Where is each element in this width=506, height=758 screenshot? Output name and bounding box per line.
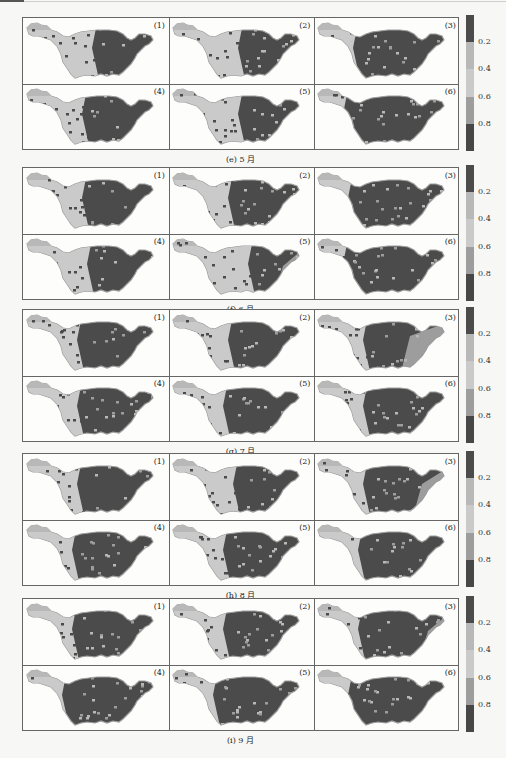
grid-cell — [224, 50, 227, 53]
grid-cell — [394, 678, 397, 681]
grid-cell — [192, 406, 195, 409]
colorbar-band — [466, 247, 474, 275]
grid-cell — [355, 254, 358, 257]
grid-cell — [434, 259, 437, 262]
grid-cell — [442, 47, 445, 50]
grid-cell — [323, 495, 326, 498]
grid-cell — [335, 249, 338, 252]
grid-cell — [443, 435, 446, 438]
grid-cell — [327, 399, 330, 402]
grid-cell — [55, 108, 58, 111]
grid-cell — [369, 609, 372, 612]
grid-cell — [158, 655, 161, 658]
basin-map — [23, 665, 168, 731]
grid-cell — [299, 552, 302, 555]
grid-cell — [146, 505, 149, 508]
grid-cell — [279, 501, 282, 504]
grid-cell — [234, 287, 237, 290]
panel-label: (5) — [299, 237, 310, 246]
grid-cell — [321, 246, 324, 249]
panel-label: (3) — [445, 457, 456, 466]
grid-cell — [238, 565, 241, 568]
panel-label: (4) — [154, 237, 165, 246]
grid-cell — [271, 190, 274, 193]
grid-cell — [107, 534, 110, 537]
grid-cell — [85, 61, 88, 64]
panel-label: (1) — [154, 602, 165, 611]
grid-cell — [53, 704, 56, 707]
grid-cell — [445, 504, 448, 507]
grid-cell — [415, 413, 418, 416]
grid-cell — [124, 206, 127, 209]
colorbar-band — [466, 219, 474, 247]
grid-cell — [238, 508, 241, 511]
grid-cell — [195, 546, 198, 549]
grid-cell — [418, 115, 421, 118]
grid-cell — [32, 320, 35, 323]
grid-cell — [341, 43, 344, 46]
colorbar — [466, 596, 474, 732]
grid-cell — [249, 400, 252, 403]
grid-cell — [62, 636, 65, 639]
grid-cell — [233, 357, 236, 360]
grid-cell — [322, 690, 325, 693]
grid-cell — [248, 346, 251, 349]
grid-cell — [425, 176, 428, 179]
grid-cell — [29, 546, 32, 549]
grid-cell — [124, 141, 127, 144]
colorbar-tick-label: 0.2 — [478, 37, 491, 46]
grid-cell — [207, 629, 210, 632]
basin-map — [314, 376, 459, 442]
grid-cell — [224, 572, 227, 575]
grid-cell — [345, 399, 348, 402]
grid-cell — [343, 716, 346, 719]
grid-cell — [234, 536, 237, 539]
grid-cell — [114, 328, 117, 331]
grid-cell — [320, 116, 323, 119]
grid-cell — [449, 269, 452, 272]
grid-cell — [215, 129, 218, 132]
grid-cell — [359, 201, 362, 204]
grid-cell — [96, 408, 99, 411]
grid-cell — [237, 631, 240, 634]
map-panel: (3) — [314, 310, 459, 376]
map-panel: (6) — [314, 234, 459, 300]
grid-cell — [396, 52, 399, 55]
grid-cell — [368, 700, 371, 703]
grid-cell — [416, 335, 419, 338]
map-panel: (1) — [23, 599, 168, 665]
grid-cell — [400, 93, 403, 96]
basin-map — [169, 599, 314, 665]
colorbar-band — [466, 361, 474, 389]
grid-cell — [415, 676, 418, 679]
grid-cell — [34, 552, 37, 555]
grid-cell — [383, 651, 386, 654]
grid-cell — [124, 497, 127, 500]
grid-cell — [225, 183, 228, 186]
grid-cell — [236, 716, 239, 719]
grid-cell — [182, 117, 185, 120]
grid-cell — [142, 554, 145, 557]
grid-cell — [149, 130, 152, 133]
grid-cell — [400, 424, 403, 427]
basin-map — [23, 168, 168, 234]
grid-cell — [371, 355, 374, 358]
grid-cell — [224, 476, 227, 479]
grid-cell — [355, 722, 358, 725]
grid-cell — [297, 611, 300, 614]
grid-cell — [350, 290, 353, 293]
grid-cell — [232, 268, 235, 271]
grid-cell — [77, 566, 80, 569]
grid-cell — [282, 45, 285, 48]
panel-label: (1) — [154, 171, 165, 180]
grid-cell — [396, 698, 399, 701]
grid-cell — [290, 141, 293, 144]
colorbar-band — [466, 678, 474, 706]
grid-cell — [244, 189, 247, 192]
grid-cell — [428, 636, 431, 639]
grid-cell — [256, 628, 259, 631]
grid-cell — [426, 509, 429, 512]
grid-cell — [40, 364, 43, 367]
light-region-source — [169, 84, 209, 96]
grid-cell — [443, 339, 446, 342]
